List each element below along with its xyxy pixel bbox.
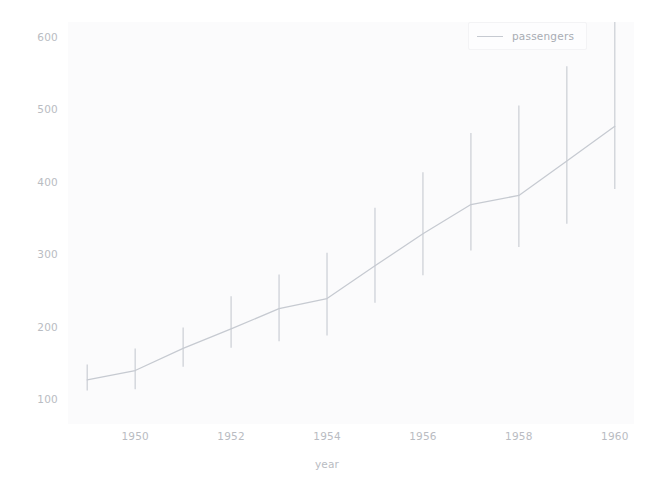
series-line-passengers <box>87 126 615 380</box>
chart-legend: passengers <box>468 22 587 50</box>
plot-area <box>68 22 634 424</box>
y-tick-label: 300 <box>12 248 58 260</box>
y-tick-label: 600 <box>12 31 58 43</box>
x-tick-label: 1960 <box>585 430 645 442</box>
y-tick-label: 400 <box>12 176 58 188</box>
x-tick-label: 1950 <box>105 430 165 442</box>
legend-label-passengers: passengers <box>512 30 574 42</box>
x-tick-label: 1952 <box>201 430 261 442</box>
x-axis-label: year <box>0 458 654 470</box>
x-tick-label: 1956 <box>393 430 453 442</box>
y-tick-label: 200 <box>12 321 58 333</box>
x-tick-label: 1958 <box>489 430 549 442</box>
error-bars <box>87 22 615 391</box>
x-tick-label: 1954 <box>297 430 357 442</box>
y-tick-label: 500 <box>12 103 58 115</box>
series-svg <box>68 22 634 424</box>
chart-figure: 100200300400500600 195019521954195619581… <box>0 0 654 498</box>
y-tick-label: 100 <box>12 393 58 405</box>
legend-line-swatch <box>477 36 503 37</box>
